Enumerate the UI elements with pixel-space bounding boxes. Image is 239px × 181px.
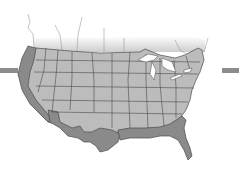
- us-map: [0, 0, 239, 181]
- canada-fade: [34, 36, 205, 52]
